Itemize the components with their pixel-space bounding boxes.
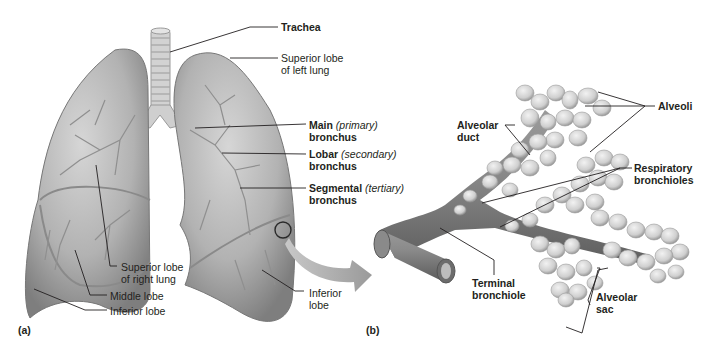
label-main-bronchus-line2: bronchus: [309, 131, 357, 143]
label-superior-lobe-left-line2: of left lung: [281, 64, 329, 76]
label-superior-lobe-left-line1: Superior lobe: [281, 52, 343, 64]
label-alveoli: Alveoli: [658, 100, 692, 112]
panel-label-b: (b): [366, 324, 379, 336]
label-respiratory-bronchioles-line2: bronchioles: [634, 174, 694, 186]
left-lung-shape: [174, 53, 295, 322]
label-segmental-bronchus: Segmental (tertiary): [309, 182, 404, 194]
label-alveolar-duct-line2: duct: [457, 131, 479, 143]
label-inferior-lobe-right: Inferior lobe: [110, 305, 165, 317]
label-alveolar-duct-line1: Alveolar: [457, 119, 498, 131]
respiratory-tree-diagram: Trachea Superior lobe of left lung Main …: [0, 0, 715, 356]
panel-label-a: (a): [18, 324, 31, 336]
label-superior-lobe-right-line2: of right lung: [121, 273, 176, 285]
label-inferior-lobe-left-line1: Inferior: [309, 287, 342, 299]
label-superior-lobe-right-line1: Superior lobe: [121, 261, 183, 273]
label-main-bronchus: Main (primary): [309, 119, 378, 131]
label-terminal-bronchiole-line2: bronchiole: [472, 289, 526, 301]
label-inferior-lobe-left-line2: lobe: [309, 299, 329, 311]
label-main-italic: (primary): [336, 119, 378, 131]
label-terminal-bronchiole-line1: Terminal: [472, 277, 515, 289]
label-lobar-italic: (secondary): [341, 148, 396, 160]
label-lobar-bold: Lobar: [309, 148, 338, 160]
label-lobar-bronchus: Lobar (secondary): [309, 148, 397, 160]
magnify-arrow: [285, 238, 372, 292]
label-trachea: Trachea: [281, 21, 321, 33]
label-segmental-bronchus-line2: bronchus: [309, 194, 357, 206]
label-segmental-italic: (tertiary): [365, 182, 404, 194]
label-alveolar-sac-line2: sac: [596, 303, 614, 315]
label-middle-lobe: Middle lobe: [110, 290, 164, 302]
label-segmental-bold: Segmental: [309, 182, 362, 194]
label-respiratory-bronchioles-line1: Respiratory: [634, 162, 692, 174]
label-main-bold: Main: [309, 119, 333, 131]
label-lobar-bronchus-line2: bronchus: [309, 160, 357, 172]
label-alveolar-sac-line1: Alveolar: [596, 291, 637, 303]
